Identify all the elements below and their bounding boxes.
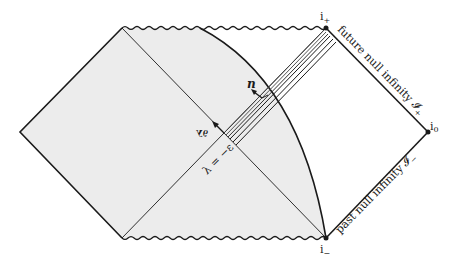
future-singularity bbox=[122, 27, 326, 30]
i-zero-label: i0 bbox=[430, 120, 439, 134]
future-null-infinity-label: future null infinity 𝓘+ bbox=[333, 23, 427, 118]
i-plus-point bbox=[324, 26, 329, 31]
normal-vector-label: n bbox=[247, 77, 256, 91]
penrose-diagram: i+ i− i0 future null infinity 𝓘+ past nu… bbox=[0, 0, 457, 265]
shaded-region bbox=[20, 28, 326, 238]
future-null-infinity-line bbox=[326, 28, 428, 132]
i-plus-label: i+ bbox=[320, 10, 330, 25]
i-minus-point bbox=[324, 236, 329, 241]
tangent-vector-label: ∂λ bbox=[196, 128, 208, 139]
past-null-infinity-label: past null infinity 𝓘− bbox=[333, 150, 420, 238]
i-minus-label: i− bbox=[320, 243, 330, 258]
